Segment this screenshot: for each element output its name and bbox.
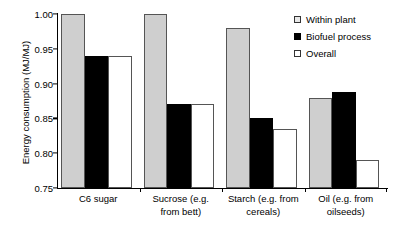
x-axis-category-label: C6 sugar (57, 193, 140, 206)
x-axis-category-label-line: cereals) (222, 206, 305, 219)
x-axis-category-label-line: C6 sugar (57, 193, 140, 206)
y-axis-title: Energy consumption (MJ/MJ) (20, 8, 31, 198)
legend-label-biofuel-process: Biofuel process (306, 31, 371, 42)
bar (167, 104, 191, 188)
bar (250, 118, 274, 188)
legend-swatch-white-icon (294, 50, 301, 57)
legend-swatch-gray-icon (294, 16, 301, 23)
bar (273, 129, 297, 188)
x-axis-category-label: Oil (e.g. fromoilseeds) (305, 193, 388, 218)
bar-group (57, 14, 140, 188)
y-axis-tick-label: 0.95 (35, 43, 54, 54)
bar (108, 56, 132, 188)
x-axis-category-label-line: Oil (e.g. from (305, 193, 388, 206)
bar (226, 28, 250, 188)
legend-label-within-plant: Within plant (306, 14, 356, 25)
y-axis-tick-label: 0.75 (35, 183, 54, 194)
bar (85, 56, 109, 188)
legend-item-biofuel-process: Biofuel process (294, 28, 371, 45)
legend-item-overall: Overall (294, 45, 371, 62)
bar (61, 14, 85, 188)
y-axis-tick-label: 1.00 (35, 9, 54, 20)
bar-group (222, 14, 305, 188)
y-axis-tick-label: 0.85 (35, 113, 54, 124)
x-axis-category-label: Sucrose (e.g.from bett) (140, 193, 223, 218)
x-axis-tick-mark (305, 188, 306, 192)
x-axis-category-label-line: Starch (e.g. from (222, 193, 305, 206)
x-axis-category-label-line: oilseeds) (305, 206, 388, 219)
chart-legend: Within plant Biofuel process Overall (294, 11, 371, 62)
x-axis-category-label-line: Sucrose (e.g. (140, 193, 223, 206)
legend-item-within-plant: Within plant (294, 11, 371, 28)
bar (309, 98, 333, 188)
bar (356, 160, 380, 188)
x-axis-category-label: Starch (e.g. fromcereals) (222, 193, 305, 218)
legend-swatch-black-icon (294, 33, 301, 40)
x-axis-category-label-line: from bett) (140, 206, 223, 219)
legend-label-overall: Overall (306, 48, 336, 59)
x-axis-tick-mark (222, 188, 223, 192)
bar-group (140, 14, 223, 188)
y-axis-tick-label: 0.90 (35, 78, 54, 89)
y-axis-tick-label: 0.80 (35, 148, 54, 159)
bar (191, 104, 215, 188)
energy-consumption-bar-chart: Energy consumption (MJ/MJ) 1.000.950.900… (0, 0, 402, 239)
x-axis-tick-mark (386, 188, 387, 192)
bar (332, 92, 356, 188)
bar (144, 14, 168, 188)
x-axis-tick-mark (140, 188, 141, 192)
